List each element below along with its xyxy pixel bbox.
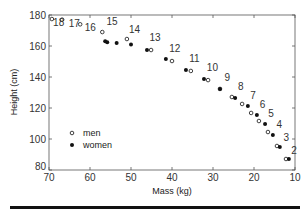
x-tick-label: 70 xyxy=(43,172,55,183)
men-point xyxy=(206,78,210,82)
x-tick-label: 10 xyxy=(289,172,301,183)
age-label: 11 xyxy=(189,53,200,64)
age-label: 12 xyxy=(169,43,181,54)
age-label: 5 xyxy=(268,108,274,119)
y-tick-label: 180 xyxy=(29,10,46,21)
age-label: 16 xyxy=(85,22,97,33)
age-label: 2 xyxy=(291,145,297,156)
x-tick-label: 20 xyxy=(248,172,260,183)
y-tick-label: 80 xyxy=(35,161,47,172)
women-point xyxy=(218,87,222,91)
legend-women-marker xyxy=(70,143,74,147)
men-point xyxy=(257,119,261,123)
y-tick-label: 140 xyxy=(29,72,46,83)
age-label: 15 xyxy=(106,16,118,27)
men-point xyxy=(189,69,193,73)
men-point xyxy=(240,102,244,106)
y-tick-label: 120 xyxy=(29,103,46,114)
men-point xyxy=(101,30,105,34)
men-point xyxy=(230,95,234,99)
age-label: 3 xyxy=(284,132,290,143)
y-axis-label: Height (cm) xyxy=(9,69,19,116)
women-point xyxy=(129,42,133,46)
legend-men-marker xyxy=(70,131,74,135)
age-label: 9 xyxy=(224,72,230,83)
men-point xyxy=(249,111,253,115)
age-label: 14 xyxy=(129,24,141,35)
age-label: 18 xyxy=(53,17,65,28)
women-point xyxy=(164,57,168,61)
age-label: 6 xyxy=(260,99,266,110)
scatter-chart: 7060504030201080100120140160180 18171615… xyxy=(0,0,305,209)
y-tick-label: 100 xyxy=(29,134,46,145)
men-point xyxy=(149,48,153,52)
legend-men-label: men xyxy=(83,128,101,138)
x-tick-label: 30 xyxy=(207,172,219,183)
men-point xyxy=(266,130,270,134)
x-tick-label: 60 xyxy=(84,172,96,183)
x-axis-label: Mass (kg) xyxy=(152,186,192,196)
women-point xyxy=(184,68,188,72)
bottom-divider xyxy=(10,206,300,209)
women-point xyxy=(202,77,206,81)
age-label: 7 xyxy=(250,90,256,101)
women-point xyxy=(278,145,282,149)
women-point xyxy=(115,41,119,45)
women-point xyxy=(145,48,149,52)
legend: men women xyxy=(70,128,112,150)
women-point xyxy=(233,96,237,100)
age-label: 10 xyxy=(207,62,219,73)
women-point xyxy=(255,113,259,117)
age-label: 13 xyxy=(149,32,161,43)
y-tick-label: 160 xyxy=(29,41,46,52)
x-tick-label: 40 xyxy=(166,172,178,183)
men-point xyxy=(170,59,174,63)
women-point xyxy=(271,133,275,137)
age-label: 8 xyxy=(238,81,244,92)
women-point xyxy=(263,122,267,126)
women-point xyxy=(287,157,291,161)
women-point xyxy=(105,40,109,44)
x-tick-label: 50 xyxy=(125,172,137,183)
age-label: 17 xyxy=(69,18,81,29)
women-point xyxy=(246,104,250,108)
men-point xyxy=(125,37,129,41)
age-label: 4 xyxy=(277,119,283,130)
legend-women-label: women xyxy=(82,140,112,150)
